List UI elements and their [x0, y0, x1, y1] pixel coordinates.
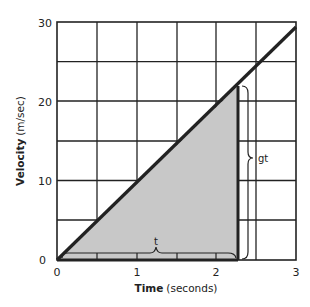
x-tick-3: 3 [293, 266, 300, 279]
velocity-time-chart: t gt 0 10 20 30 0 1 2 3 Time(seconds) Ve… [0, 0, 310, 307]
y-axis-title: Velocity(m/sec) [14, 96, 26, 186]
x-tick-1: 1 [134, 266, 141, 279]
gt-brace [242, 86, 253, 259]
y-tick-10: 10 [38, 175, 52, 188]
y-tick-0: 0 [39, 254, 46, 267]
t-label: t [154, 236, 158, 247]
y-tick-20: 20 [38, 96, 52, 109]
x-tick-0: 0 [54, 266, 61, 279]
gt-label: gt [258, 153, 268, 164]
y-axis-title-main: Velocity [14, 139, 26, 186]
x-axis-title: Time(seconds) [135, 282, 218, 294]
y-tick-30: 30 [38, 17, 52, 30]
x-axis-title-main: Time [135, 282, 164, 294]
x-axis-unit: (seconds) [166, 282, 217, 294]
x-tick-2: 2 [213, 266, 220, 279]
y-axis-unit: (m/sec) [14, 96, 26, 136]
